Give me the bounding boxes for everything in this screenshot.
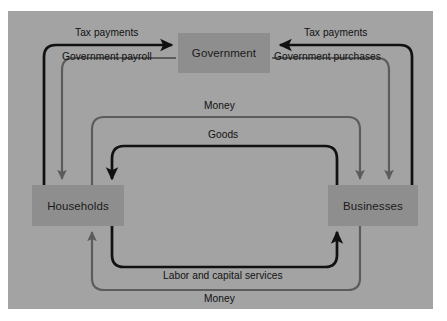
flow-label-money-factor-payment: Money [204, 293, 235, 304]
flow-label-government-payroll: Government payroll [62, 51, 152, 62]
flow-label-labor-and-capital-services: Labor and capital services [163, 270, 283, 281]
flow-path-money-goods-payment [92, 117, 360, 185]
node-households[interactable]: Households [32, 185, 124, 226]
flow-path-goods [112, 146, 337, 185]
node-businesses-label: Businesses [343, 200, 403, 212]
flow-label-government-purchases: Government purchases [274, 51, 381, 62]
flow-label-goods: Goods [208, 129, 238, 140]
flow-path-tax-payments-businesses [280, 45, 412, 185]
flow-path-government-payroll [62, 58, 176, 179]
node-government-label: Government [192, 47, 256, 59]
node-government[interactable]: Government [178, 33, 270, 73]
node-businesses[interactable]: Businesses [328, 185, 418, 226]
flow-label-tax-payments-households: Tax payments [75, 27, 138, 38]
flow-path-government-purchases [272, 58, 389, 179]
flow-label-tax-payments-businesses: Tax payments [304, 27, 367, 38]
flow-label-money-goods-payment: Money [204, 100, 235, 111]
node-households-label: Households [47, 200, 109, 212]
flow-path-labor-and-capital-services [112, 226, 337, 267]
diagram-page: Government Households Businesses Tax pay… [0, 0, 447, 321]
